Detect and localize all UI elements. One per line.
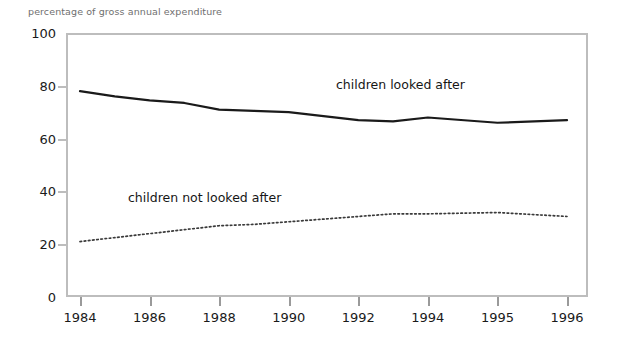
series-annotation-children-looked-after: children looked after xyxy=(336,77,465,92)
series-line-children-not-looked-after xyxy=(80,213,567,242)
series-lines xyxy=(0,0,618,348)
series-annotation-children-not-looked-after: children not looked after xyxy=(128,190,281,205)
line-chart: percentage of gross annual expenditure 0… xyxy=(0,0,618,348)
series-line-children-looked-after xyxy=(80,91,567,123)
